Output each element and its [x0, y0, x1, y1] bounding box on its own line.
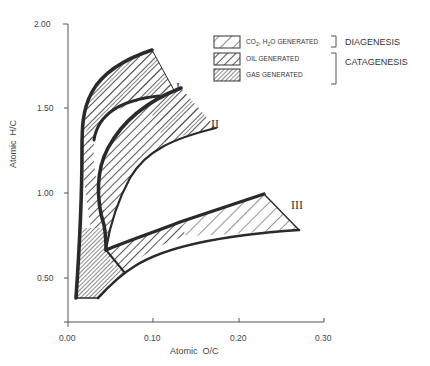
legend-co2-part-a: CO: [246, 38, 256, 45]
x-tick-label: 0.10: [144, 333, 161, 343]
y-tick-label: 1.50: [37, 103, 54, 113]
legend-swatch-co2: [214, 36, 240, 48]
stage-label-catagenesis: CATAGENESIS: [345, 57, 408, 67]
y-axis-title: Atomic H/C: [8, 120, 18, 168]
y-tick-label: 2.00: [34, 19, 51, 29]
legend-label-oil: OIL GENERATED: [246, 55, 299, 62]
curve-label-type2: II: [211, 117, 219, 132]
y-tick-label: 0.50: [37, 273, 54, 283]
curve-label-type1: I: [176, 80, 180, 95]
legend-co2-part-c: O GENERATED: [270, 38, 318, 45]
curve-label-type3: III: [291, 198, 303, 213]
x-tick-label: 0.20: [230, 333, 247, 343]
legend-swatch-oil: [214, 53, 240, 65]
legend-swatches: [214, 36, 240, 81]
legend-label-gas: GAS GENERATED: [246, 71, 303, 78]
x-axis-title: Atomic O/C: [170, 346, 219, 356]
y-tick-label: 1.00: [37, 188, 54, 198]
bracket-diagenesis: [331, 36, 336, 47]
stage-label-diagenesis: DIAGENESIS: [345, 37, 400, 47]
x-tick-label: 0.00: [59, 333, 76, 343]
legend-label-co2: CO2, H2O GENERATED: [246, 38, 318, 47]
van-krevelen-diagram: [0, 0, 430, 366]
legend-brackets: [331, 36, 336, 84]
legend-swatch-gas: [214, 69, 240, 81]
x-tick-label: 0.30: [315, 333, 332, 343]
bracket-catagenesis: [331, 53, 336, 84]
